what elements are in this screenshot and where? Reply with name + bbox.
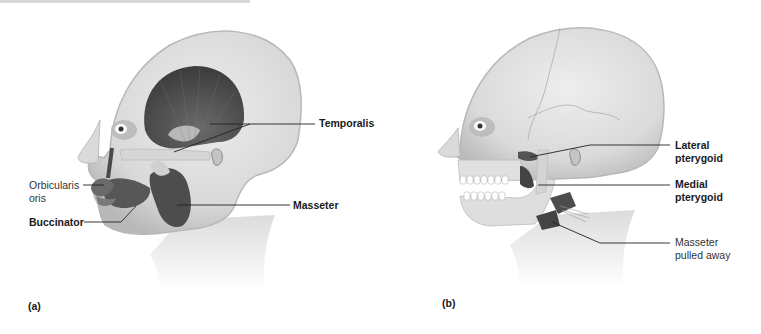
label-text: Masseter <box>293 199 339 211</box>
label-text-line2: oris <box>29 192 79 205</box>
label-text-line1: Medial <box>675 178 723 191</box>
label-lateral-pterygoid: Lateral pterygoid <box>675 139 723 164</box>
label-medial-pterygoid: Medial pterygoid <box>675 178 723 203</box>
label-buccinator: Buccinator <box>29 216 84 229</box>
label-masseter: Masseter <box>293 199 339 212</box>
label-masseter-pulled-away: Masseter pulled away <box>675 236 730 261</box>
label-text-line2: pulled away <box>675 249 730 262</box>
label-text-line1: Masseter <box>675 236 730 249</box>
panel-tag-a: (a) <box>28 300 41 312</box>
panel-b: Lateral pterygoid Medial pterygoid Masse… <box>380 0 761 334</box>
panel-a: Temporalis Masseter Orbicularis oris Buc… <box>0 0 380 334</box>
label-text: Temporalis <box>319 117 374 129</box>
skull-illustration-b <box>380 0 761 334</box>
label-text: Buccinator <box>29 216 84 228</box>
label-text-line2: pterygoid <box>675 191 723 204</box>
label-text-line2: pterygoid <box>675 152 723 165</box>
head-illustration-a <box>0 0 380 334</box>
label-temporalis: Temporalis <box>319 117 374 130</box>
skull-shape <box>451 28 664 180</box>
panel-tag-b: (b) <box>442 297 455 309</box>
label-text-line1: Lateral <box>675 139 723 152</box>
label-orbicularis-oris: Orbicularis oris <box>29 179 79 204</box>
label-text-line1: Orbicularis <box>29 179 79 192</box>
